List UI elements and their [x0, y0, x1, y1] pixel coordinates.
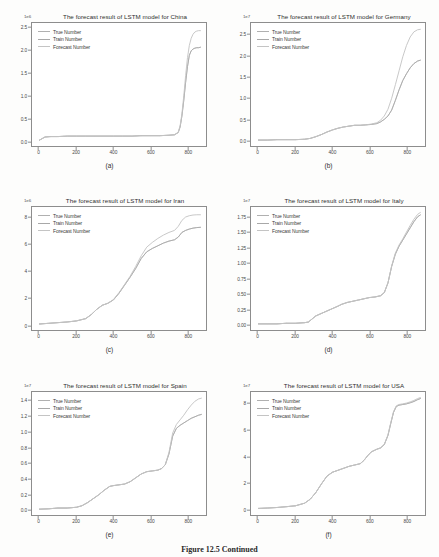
y-tick-label: 0.00: [224, 323, 246, 328]
x-tick-label: 800: [177, 150, 199, 155]
y-tick-label: 0.8: [5, 445, 27, 450]
x-tick-label: 0: [246, 334, 268, 339]
y-tick-mark: [28, 416, 31, 417]
y-tick-mark: [247, 429, 250, 430]
y-tick-label: 0.4: [5, 477, 27, 482]
x-tick-mark: [38, 147, 39, 150]
x-tick-label: 600: [140, 334, 162, 339]
legend-label: Forecast Number: [53, 44, 90, 50]
chart-legend: True NumberTrain NumberForecast Number: [255, 210, 312, 237]
legend-item: Train Number: [257, 36, 309, 44]
legend-line-swatch: [38, 415, 50, 416]
chart-title: The forecast result of LSTM model for It…: [253, 197, 435, 204]
x-tick-label: 0: [27, 150, 49, 155]
x-tick-mark: [257, 147, 258, 150]
x-tick-label: 400: [321, 334, 343, 339]
x-tick-label: 400: [321, 519, 343, 524]
chart-legend: True NumberTrain NumberForecast Number: [36, 26, 93, 53]
y-tick-label: 1.5: [5, 71, 27, 76]
chart-title: The forecast result of LSTM model for Ge…: [253, 13, 435, 20]
series-line: [39, 414, 201, 509]
y-tick-label: 2.5: [224, 32, 246, 37]
y-tick-label: 0.0: [224, 139, 246, 144]
x-tick-label: 200: [65, 150, 87, 155]
legend-label: Train Number: [272, 405, 301, 411]
legend-line-swatch: [38, 31, 50, 32]
x-tick-label: 400: [102, 334, 124, 339]
figure-caption: Figure 12.5 Continued: [0, 545, 439, 557]
x-tick-mark: [332, 516, 333, 519]
x-tick-label: 200: [65, 334, 87, 339]
y-tick-label: 2.5: [5, 25, 27, 30]
x-tick-label: 0: [246, 519, 268, 524]
x-tick-mark: [76, 516, 77, 519]
y-tick-mark: [247, 232, 250, 233]
legend-line-swatch: [257, 415, 269, 416]
x-tick-mark: [407, 331, 408, 334]
legend-line-swatch: [38, 230, 50, 231]
y-tick-mark: [28, 432, 31, 433]
y-tick-mark: [28, 73, 31, 74]
figure-caption-label: Figure 12.5: [181, 545, 220, 554]
y-tick-label: 8: [224, 401, 246, 406]
series-line: [39, 414, 201, 509]
legend-label: Forecast Number: [272, 228, 309, 234]
y-tick-label: 1.0: [5, 93, 27, 98]
y-tick-mark: [28, 27, 31, 28]
x-tick-label: 800: [396, 519, 418, 524]
legend-item: Train Number: [257, 220, 309, 228]
legend-label: Forecast Number: [53, 228, 90, 234]
x-tick-mark: [332, 331, 333, 334]
y-tick-label: 1.00: [224, 261, 246, 266]
x-tick-mark: [188, 147, 189, 150]
legend-label: Train Number: [53, 405, 82, 411]
y-tick-mark: [28, 118, 31, 119]
legend-item: Train Number: [38, 36, 90, 44]
subplot-f: 1e7The forecast result of LSTM model for…: [219, 371, 438, 553]
y-tick-mark: [28, 244, 31, 245]
y-tick-mark: [247, 120, 250, 121]
legend-label: Train Number: [53, 36, 82, 42]
legend-label: True Number: [53, 398, 81, 404]
x-tick-mark: [369, 516, 370, 519]
x-tick-mark: [407, 147, 408, 150]
x-tick-label: 200: [284, 150, 306, 155]
chart-legend: True NumberTrain NumberForecast Number: [36, 395, 93, 422]
y-tick-mark: [247, 456, 250, 457]
x-tick-mark: [407, 516, 408, 519]
y-axis-exponent: 1e7: [243, 198, 250, 203]
y-tick-mark: [28, 96, 31, 97]
y-tick-mark: [247, 278, 250, 279]
subplot-label: (b): [219, 162, 438, 169]
y-tick-mark: [28, 447, 31, 448]
y-tick-mark: [247, 483, 250, 484]
subplot-a: 1e6The forecast result of LSTM model for…: [0, 2, 219, 184]
y-tick-label: 0.6: [5, 461, 27, 466]
y-tick-label: 1.5: [224, 74, 246, 79]
chart-title: The forecast result of LSTM model for Sp…: [34, 382, 216, 389]
chart-title: The forecast result of LSTM model for Ch…: [34, 13, 216, 20]
legend-item: Train Number: [38, 220, 90, 228]
x-tick-label: 800: [177, 519, 199, 524]
x-tick-mark: [113, 331, 114, 334]
y-tick-mark: [28, 463, 31, 464]
legend-line-swatch: [257, 39, 269, 40]
legend-label: Forecast Number: [272, 413, 309, 419]
legend-item: True Number: [38, 397, 90, 405]
x-tick-mark: [76, 147, 77, 150]
x-tick-mark: [113, 516, 114, 519]
y-tick-label: 4: [5, 269, 27, 274]
y-tick-label: 0.5: [224, 117, 246, 122]
legend-line-swatch: [257, 31, 269, 32]
x-tick-mark: [295, 331, 296, 334]
x-tick-mark: [332, 147, 333, 150]
y-tick-mark: [28, 325, 31, 326]
y-tick-mark: [28, 510, 31, 511]
series-line: [39, 227, 200, 324]
y-tick-label: 6: [5, 242, 27, 247]
series-line: [39, 47, 200, 140]
legend-item: True Number: [38, 28, 90, 36]
chart-title: The forecast result of LSTM model for Ir…: [34, 197, 216, 204]
legend-item: Forecast Number: [38, 43, 90, 51]
y-tick-mark: [247, 98, 250, 99]
